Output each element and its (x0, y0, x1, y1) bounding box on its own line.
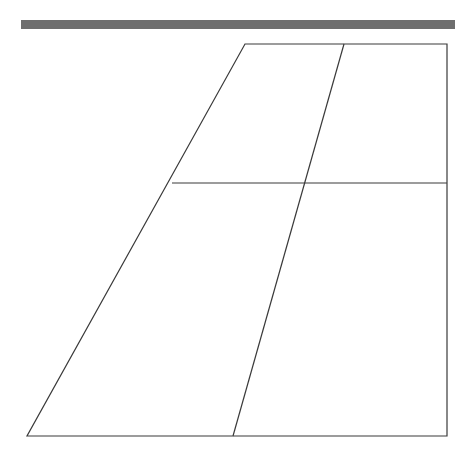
geometry-figure (0, 0, 472, 466)
slanted-divider-line (233, 44, 344, 436)
diagram-canvas (0, 0, 472, 466)
top-rule-bar (21, 20, 455, 29)
quadrilateral-outline (27, 44, 447, 436)
